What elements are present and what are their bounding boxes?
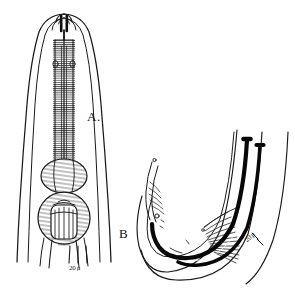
figure-plate: A. B 20 μ 20 μ [0, 0, 295, 298]
panel-b-label: B [119, 227, 128, 240]
panel-a-label: A. [87, 110, 101, 123]
figure-drawing [0, 0, 295, 298]
panel-a-scale-label: 20 μ [69, 264, 80, 272]
